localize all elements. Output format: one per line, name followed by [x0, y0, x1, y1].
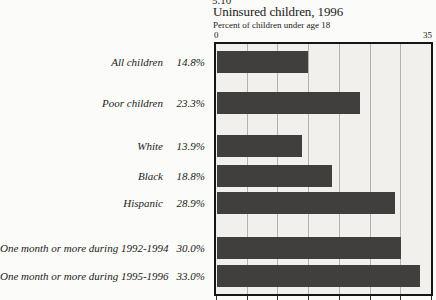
category-label: All children — [0, 54, 163, 70]
row-label: All children14.8% — [0, 54, 205, 70]
value-label: 18.8% — [163, 168, 205, 184]
bar — [217, 265, 420, 287]
axis-tick — [277, 296, 278, 300]
x-axis-max-label: 35 — [423, 30, 432, 40]
value-label: 13.9% — [163, 138, 205, 154]
bar — [217, 192, 395, 214]
x-axis-min-label: 0 — [214, 30, 219, 40]
x-axis: 0 35 — [214, 30, 432, 40]
chart-subtitle: Percent of children under age 18 — [213, 20, 330, 30]
row-label: One month or more during 1992-199430.0% — [0, 240, 205, 256]
category-label: White — [0, 138, 163, 154]
bar — [217, 165, 332, 187]
value-label: 30.0% — [169, 240, 205, 256]
category-label: Black — [0, 168, 163, 184]
axis-tick — [216, 296, 217, 300]
row-label: Poor children23.3% — [0, 95, 205, 111]
bar — [217, 51, 308, 73]
axis-tick — [247, 296, 248, 300]
value-label: 33.0% — [169, 268, 205, 284]
axis-tick — [400, 296, 401, 300]
bar — [217, 92, 360, 114]
row-label: Hispanic28.9% — [0, 195, 205, 211]
row-label: Black18.8% — [0, 168, 205, 184]
bar — [217, 135, 302, 157]
category-label: Hispanic — [0, 195, 163, 211]
plot-area — [214, 42, 433, 296]
axis-tick — [308, 296, 309, 300]
category-label: One month or more during 1995-1996 — [0, 268, 169, 284]
value-label: 14.8% — [163, 54, 205, 70]
axis-tick — [339, 296, 340, 300]
row-label: One month or more during 1995-199633.0% — [0, 268, 205, 284]
bar — [217, 237, 401, 259]
axis-tick — [370, 296, 371, 300]
category-label: Poor children — [0, 95, 163, 111]
value-label: 23.3% — [163, 95, 205, 111]
category-label: One month or more during 1992-1994 — [0, 240, 169, 256]
chart-title: Uninsured children, 1996 — [213, 5, 343, 19]
value-label: 28.9% — [163, 195, 205, 211]
axis-tick — [431, 296, 432, 300]
row-label: White13.9% — [0, 138, 205, 154]
